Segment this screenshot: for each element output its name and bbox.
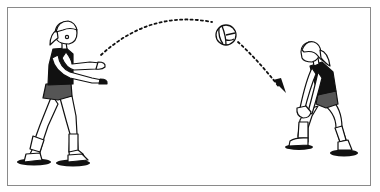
trajectory-arrow bbox=[101, 19, 280, 88]
drill-drawing bbox=[0, 0, 380, 192]
tossing-player bbox=[17, 21, 107, 167]
arrowhead-icon bbox=[273, 78, 286, 93]
volleyball-icon bbox=[216, 25, 236, 45]
illustration-canvas bbox=[0, 0, 380, 192]
passing-player bbox=[285, 42, 358, 157]
